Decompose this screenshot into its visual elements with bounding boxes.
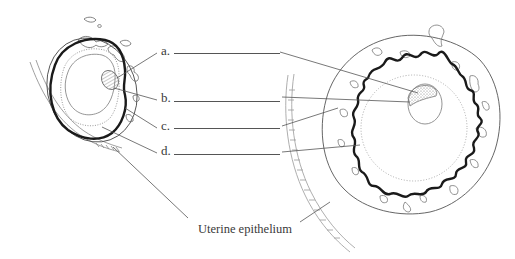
blastocyst-implantation-diagram — [0, 0, 515, 259]
implanted-blastocyst — [286, 25, 500, 252]
answer-blank-c[interactable] — [174, 128, 280, 129]
uterine-epithelium-label: Uterine epithelium — [198, 223, 292, 236]
label-a: a. — [161, 44, 170, 57]
early-blastocyst — [30, 17, 151, 155]
outer-decidua-right — [322, 35, 500, 214]
answer-blank-d[interactable] — [174, 154, 280, 155]
answer-blank-b[interactable] — [174, 101, 280, 102]
leader-lines — [102, 52, 418, 222]
label-b: b. — [161, 91, 171, 104]
label-c: c. — [161, 119, 170, 132]
label-d: d. — [161, 144, 171, 157]
answer-blank-a[interactable] — [174, 53, 280, 54]
uterine-epithelium-right — [286, 74, 355, 252]
trophoblast-right — [352, 52, 482, 197]
